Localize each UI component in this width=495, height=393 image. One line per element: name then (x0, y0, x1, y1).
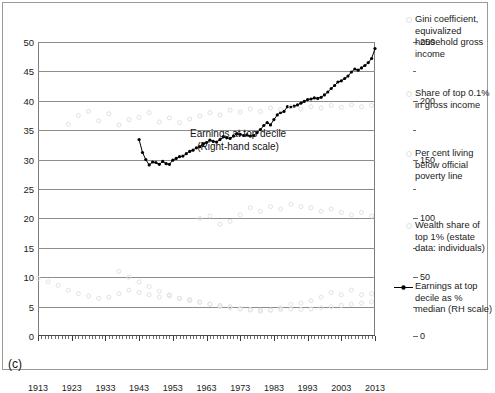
x-axis-minor-tick (328, 336, 329, 339)
data-point (228, 219, 232, 223)
side-note-1: Share of top 0.1% in gross income (415, 88, 495, 111)
x-axis-minor-tick (210, 336, 211, 339)
data-point (76, 114, 80, 118)
data-point (367, 61, 370, 64)
x-axis-minor-tick (122, 336, 123, 339)
data-point (127, 288, 131, 292)
x-axis-minor-tick (351, 336, 352, 339)
left-axis-tick-label: 10 (0, 272, 34, 283)
x-axis-minor-tick (372, 336, 373, 339)
x-axis-minor-tick (217, 336, 218, 339)
left-axis-tick-label: 15 (0, 242, 34, 253)
x-axis-minor-tick (142, 336, 143, 339)
line-marker-icon (394, 284, 413, 291)
left-axis-tick-label: 35 (0, 125, 34, 136)
x-axis-minor-tick (116, 336, 117, 339)
data-point (168, 163, 171, 166)
x-axis-tick-label: 1993 (298, 383, 318, 393)
data-point (117, 123, 121, 127)
series-annotation: Earnings at top decile (Right-hand scale… (190, 127, 286, 153)
data-point (178, 155, 181, 158)
data-point (185, 152, 188, 155)
x-axis-minor-tick (358, 336, 359, 339)
x-axis-minor-tick (119, 336, 120, 339)
data-point (299, 205, 303, 209)
x-axis-minor-tick (203, 336, 204, 339)
x-axis-minor-tick (132, 336, 133, 339)
data-point (309, 299, 313, 303)
data-point (157, 289, 161, 293)
data-point (303, 100, 306, 103)
x-axis-minor-tick (102, 336, 103, 339)
x-axis-major-tick (207, 336, 208, 341)
x-axis-tick-label: 2013 (365, 383, 385, 393)
x-axis-minor-tick (244, 336, 245, 339)
data-point (46, 280, 50, 284)
data-point (117, 292, 121, 296)
x-axis-minor-tick (230, 336, 231, 339)
x-axis-minor-tick (58, 336, 59, 339)
data-point (343, 77, 346, 80)
data-point (299, 102, 302, 105)
data-point (137, 115, 141, 119)
x-axis-minor-tick (78, 336, 79, 339)
x-axis-minor-tick (129, 336, 130, 339)
data-point (360, 105, 364, 109)
data-point (333, 84, 336, 87)
data-point (299, 301, 303, 305)
data-point (208, 111, 212, 115)
x-axis-minor-tick (247, 336, 248, 339)
data-point (269, 106, 273, 110)
side-note-0: Gini coefficient, equivalized household … (415, 14, 495, 60)
data-point (147, 285, 151, 289)
data-point (66, 122, 70, 126)
x-axis-minor-tick (311, 336, 312, 339)
data-point (276, 113, 279, 116)
x-axis-minor-tick (223, 336, 224, 339)
x-axis-minor-tick (227, 336, 228, 339)
data-point (339, 105, 343, 109)
x-axis-minor-tick (95, 336, 96, 339)
x-axis-minor-tick (348, 336, 349, 339)
x-axis-tick-label: 1973 (230, 383, 250, 393)
data-point (208, 214, 212, 218)
x-axis-major-tick (274, 336, 275, 341)
data-point (141, 151, 144, 154)
data-point (175, 157, 178, 160)
x-axis-major-tick (341, 336, 342, 341)
data-point (167, 116, 171, 120)
side-note-marker-icon (406, 223, 412, 229)
x-axis-minor-tick (233, 336, 234, 339)
data-point (137, 291, 141, 295)
x-axis-minor-tick (176, 336, 177, 339)
x-axis-minor-tick (301, 336, 302, 339)
data-point (181, 155, 184, 158)
data-point (360, 293, 364, 297)
x-axis-minor-tick (287, 336, 288, 339)
x-axis-minor-tick (48, 336, 49, 339)
data-point (339, 293, 343, 297)
x-axis-minor-tick (62, 336, 63, 339)
x-axis-minor-tick (190, 336, 191, 339)
data-point (76, 292, 80, 296)
data-point (370, 214, 374, 218)
x-axis-minor-tick (324, 336, 325, 339)
data-point (127, 118, 131, 122)
data-point (319, 106, 323, 110)
x-axis-tick-label: 1913 (28, 383, 48, 393)
x-axis-minor-tick (365, 336, 366, 339)
data-point (309, 307, 313, 311)
data-point (309, 206, 313, 210)
x-axis-minor-tick (183, 336, 184, 339)
data-point (313, 96, 316, 99)
x-axis-tick-label: 1943 (129, 383, 149, 393)
data-point (87, 294, 91, 298)
x-axis-minor-tick (250, 336, 251, 339)
left-axis-tick-label: 5 (0, 301, 34, 312)
x-axis-minor-tick (51, 336, 52, 339)
x-axis-minor-tick (169, 336, 170, 339)
data-point (147, 111, 151, 115)
x-axis-minor-tick (200, 336, 201, 339)
x-axis-tick-label: 1953 (163, 383, 183, 393)
data-point (178, 121, 182, 125)
